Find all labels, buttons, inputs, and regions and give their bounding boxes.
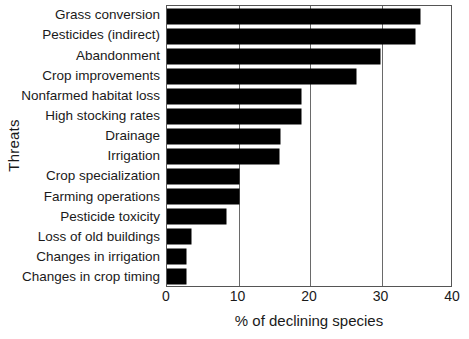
y-axis-tick-labels: Grass conversionPesticides (indirect)Aba… xyxy=(26,5,163,287)
bar xyxy=(167,9,420,24)
bar xyxy=(167,29,415,44)
bar xyxy=(167,189,239,204)
plot-area xyxy=(166,5,452,287)
bar xyxy=(167,129,280,144)
bar-row xyxy=(167,46,451,66)
bar xyxy=(167,149,279,164)
bar-row xyxy=(167,6,451,26)
bar-row xyxy=(167,66,451,86)
x-axis-tick-label: 20 xyxy=(301,288,317,304)
bar xyxy=(167,89,301,104)
y-axis-tick-label: Crop specialization xyxy=(26,166,163,186)
bar-row xyxy=(167,106,451,126)
x-axis-tick-label: 0 xyxy=(162,288,170,304)
bar-row xyxy=(167,206,451,226)
y-axis-tick-label: Pesticides (indirect) xyxy=(26,25,163,45)
y-axis-tick-label: Drainage xyxy=(26,126,163,146)
y-axis-tick-label: Nonfarmed habitat loss xyxy=(26,86,163,106)
y-axis-tick-label: Loss of old buildings xyxy=(26,227,163,247)
bar-row xyxy=(167,146,451,166)
bar-row xyxy=(167,26,451,46)
y-axis-tick-label: Irrigation xyxy=(26,146,163,166)
bar-row xyxy=(167,246,451,266)
y-axis-tick-label: Grass conversion xyxy=(26,5,163,25)
y-axis-tick-label: Changes in crop timing xyxy=(26,267,163,287)
x-axis-tick-label: 10 xyxy=(230,288,246,304)
x-axis-tick-label: 40 xyxy=(444,288,460,304)
bar-series xyxy=(167,6,451,286)
bar xyxy=(167,109,301,124)
bar xyxy=(167,229,191,244)
y-axis-tick-label: Abandonment xyxy=(26,45,163,65)
bar-row xyxy=(167,126,451,146)
x-axis-title: % of declining species xyxy=(166,312,452,329)
x-axis-tick-labels: 010203040 xyxy=(166,288,452,308)
bar-row xyxy=(167,266,451,286)
bar-row xyxy=(167,226,451,246)
y-axis-title: Threats xyxy=(5,119,22,171)
y-axis-title-container: Threats xyxy=(0,0,26,290)
y-axis-tick-label: Changes in irrigation xyxy=(26,247,163,267)
bar xyxy=(167,169,239,184)
bar-row xyxy=(167,166,451,186)
bar-row xyxy=(167,186,451,206)
bar xyxy=(167,209,226,224)
bar-row xyxy=(167,86,451,106)
bar xyxy=(167,69,356,84)
y-axis-tick-label: High stocking rates xyxy=(26,106,163,126)
y-axis-tick-label: Farming operations xyxy=(26,186,163,206)
x-axis-tick-label: 30 xyxy=(373,288,389,304)
y-axis-tick-label: Pesticide toxicity xyxy=(26,206,163,226)
bar-chart-figure: Threats Grass conversionPesticides (indi… xyxy=(0,0,469,339)
bar xyxy=(167,269,186,284)
bar xyxy=(167,249,186,264)
bar xyxy=(167,49,380,64)
y-axis-tick-label: Crop improvements xyxy=(26,65,163,85)
